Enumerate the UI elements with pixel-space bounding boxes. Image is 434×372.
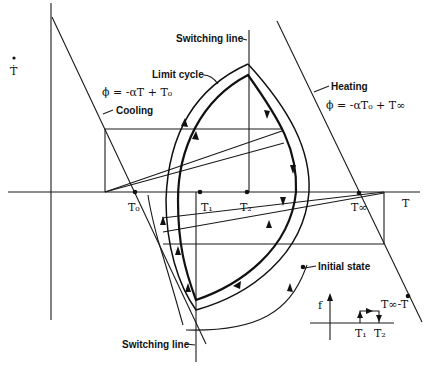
inset-arrow-right — [366, 308, 373, 314]
switching-line-bottom-label: Switching line — [122, 339, 190, 350]
heating-label: Heating — [331, 81, 368, 92]
cooling-equation: ϕ = -αT + T₀ — [102, 86, 173, 99]
point-tinf — [357, 191, 362, 196]
point-t2 — [245, 190, 250, 195]
arrow-up-inner-lower — [175, 246, 181, 255]
arrow-down-lower-right — [266, 220, 272, 228]
upper-ray-1 — [105, 131, 282, 192]
label-tinf: T∞ — [351, 201, 368, 214]
arrow-down-inner — [280, 197, 286, 206]
cooling-line — [52, 17, 206, 344]
heating-equation: ϕ = -αT₀ + T∞ — [326, 99, 405, 112]
label-t0: T₀ — [128, 201, 140, 214]
arrow-down-right — [264, 110, 270, 119]
inset-t1-label: T₁ — [355, 327, 367, 340]
inset-step-path — [360, 311, 379, 323]
y-axis-dot — [12, 56, 15, 59]
inset-arrow-down — [376, 315, 382, 322]
arrow-up-outer — [181, 118, 188, 127]
heating-line — [277, 21, 422, 322]
y-axis-label: Ṫ — [10, 64, 18, 78]
heating-pointer — [314, 86, 329, 92]
limit-cycle-pointer — [203, 75, 218, 84]
limit-cycle-label: Limit cycle — [152, 69, 204, 80]
inset-f-label: f — [318, 299, 323, 312]
tinf-minus-t-label: T∞-T — [381, 298, 409, 311]
point-initial-state — [301, 265, 306, 270]
cooling-label: Cooling — [116, 105, 153, 116]
phase-plane-diagram: Ṫ T T₀ T₁ T₂ T∞ Switching line Limit cy… — [0, 0, 434, 372]
point-t1 — [198, 190, 203, 195]
arrow-initial-path — [287, 283, 293, 292]
inset-y-arrow — [327, 293, 333, 301]
label-t1: T₁ — [201, 201, 213, 214]
point-t0 — [133, 190, 138, 195]
switching-line-top-label: Switching line — [176, 33, 244, 44]
inset-arrow-up — [357, 311, 363, 318]
x-axis-label: T — [402, 197, 410, 210]
label-t2: T₂ — [240, 201, 252, 214]
cooling-pointer — [103, 110, 113, 114]
inset-t2-label: T₂ — [374, 327, 386, 340]
initial-state-label: Initial state — [318, 261, 371, 272]
upper-ray-2 — [105, 143, 284, 192]
